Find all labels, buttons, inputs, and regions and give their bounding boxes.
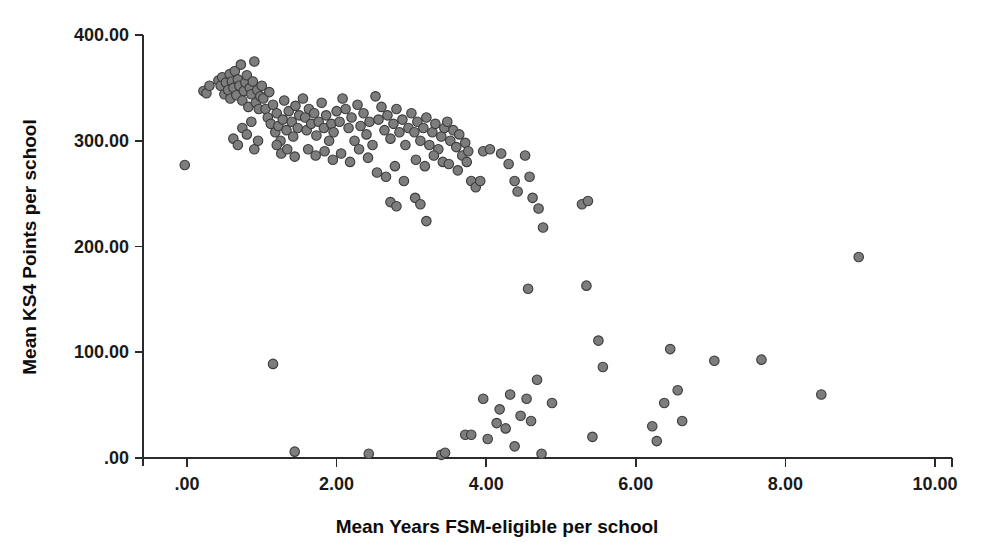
data-point (312, 131, 322, 141)
data-point (513, 187, 523, 197)
y-tick-label-200: 200.00 (74, 236, 129, 257)
data-point (547, 398, 557, 408)
data-point (466, 430, 476, 440)
data-point (538, 223, 548, 233)
data-point (290, 447, 300, 457)
data-point (250, 57, 260, 67)
data-point (443, 117, 453, 127)
data-point (368, 140, 378, 150)
data-point (523, 284, 533, 294)
data-point (364, 449, 374, 459)
data-point (265, 87, 275, 97)
y-tick-label-100: 100.00 (74, 342, 129, 363)
data-point (528, 193, 538, 203)
data-point (525, 172, 535, 182)
data-point (320, 147, 330, 157)
data-point (452, 142, 462, 152)
data-point (648, 422, 658, 432)
data-point (395, 128, 405, 138)
data-point (347, 113, 357, 123)
data-point (411, 155, 421, 165)
data-point (236, 60, 246, 70)
data-point (510, 176, 520, 186)
data-point (328, 155, 338, 165)
data-point (425, 140, 435, 150)
data-point (505, 390, 515, 400)
data-point (401, 140, 411, 150)
data-point (356, 121, 366, 131)
data-point (279, 96, 289, 106)
data-point (389, 119, 399, 129)
data-point (386, 134, 396, 144)
data-point (817, 390, 827, 400)
data-point (392, 104, 402, 114)
y-tick-label-300: 300.00 (74, 130, 129, 151)
data-point (365, 117, 375, 127)
data-point (233, 140, 243, 150)
data-point (526, 416, 536, 426)
data-point (510, 442, 520, 452)
data-point (665, 344, 675, 354)
data-points-group (180, 57, 863, 460)
data-point (338, 94, 348, 104)
data-point (332, 106, 342, 116)
data-point (478, 394, 488, 404)
data-point (475, 176, 485, 186)
data-point (374, 115, 384, 125)
data-point (336, 149, 346, 159)
data-point (582, 281, 592, 291)
data-point (363, 153, 373, 163)
data-point (659, 398, 669, 408)
data-point (311, 151, 321, 161)
data-point (594, 336, 604, 346)
y-axis-title: Mean KS4 Points per school (19, 119, 41, 375)
x-tick-label-2: 2.00 (319, 474, 354, 495)
data-point (492, 418, 502, 428)
data-point (534, 204, 544, 214)
data-point (501, 424, 511, 434)
data-point (205, 81, 215, 91)
data-point (588, 432, 598, 442)
data-point (317, 98, 327, 108)
data-point (520, 151, 530, 161)
data-point (854, 252, 864, 262)
data-point (335, 117, 345, 127)
data-point (298, 94, 308, 104)
y-tick-label-400: 400.00 (74, 25, 129, 46)
data-point (380, 125, 390, 135)
data-point (652, 436, 662, 446)
data-point (444, 159, 454, 169)
data-point (455, 130, 465, 140)
data-point (673, 386, 683, 396)
data-point (496, 149, 506, 159)
data-point (598, 362, 608, 372)
x-tick-label-6: 6.00 (618, 474, 653, 495)
data-point (485, 144, 495, 154)
x-tick-label-0: .00 (174, 474, 199, 495)
x-tick-label-10: 10.00 (912, 474, 957, 495)
data-point (429, 151, 439, 161)
data-point (398, 115, 408, 125)
data-point (390, 161, 400, 171)
data-point (504, 159, 514, 169)
data-point (710, 356, 720, 366)
data-point (516, 411, 526, 421)
data-point (464, 147, 474, 157)
data-point (431, 119, 441, 129)
data-point (583, 196, 593, 206)
data-point (344, 123, 354, 133)
data-point (399, 176, 409, 186)
data-point (341, 104, 351, 114)
data-point (422, 113, 432, 123)
data-point (483, 434, 493, 444)
data-point (242, 130, 252, 140)
data-point (345, 157, 355, 167)
x-tick-label-8: 8.00 (768, 474, 803, 495)
data-point (372, 168, 382, 178)
data-point (329, 128, 339, 138)
data-point (291, 101, 301, 111)
data-point (407, 109, 417, 119)
data-point (757, 355, 767, 365)
data-point (353, 100, 363, 110)
data-point (282, 144, 292, 154)
